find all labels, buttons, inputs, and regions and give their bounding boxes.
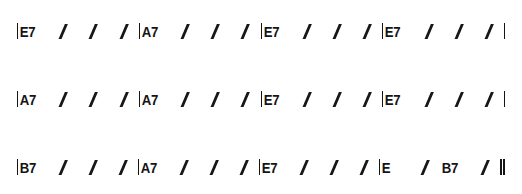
rhythm-slash-icon [454,24,463,39]
staff-line: B7A7E7EB7 [17,154,505,180]
chord-chart: E7A7E7E7A7A7E7E7B7A7E7EB7 [0,0,522,194]
staff-line: A7A7E7E7 [17,86,505,112]
barline [504,91,505,107]
rhythm-slash-icon [413,18,443,44]
rhythm-slash-icon [118,160,127,175]
chord-symbol: A7 [18,86,48,112]
rhythm-slash-icon [413,86,443,112]
rhythm-slash-icon [424,92,433,107]
rhythm-slash-icon [181,92,190,107]
chord-symbol: A7 [140,86,170,112]
measure: A7 [139,154,259,180]
rhythm-slash-icon [319,154,349,180]
rhythm-slash-icon [108,154,138,180]
rhythm-slash-icon [78,154,108,180]
rhythm-slash-icon [181,24,190,39]
rhythm-slash-icon [421,160,430,175]
rhythm-slash-icon [200,86,230,112]
chord-symbol-text: E7 [18,24,35,39]
rhythm-slash-icon [48,154,78,180]
rhythm-slash-icon [229,154,259,180]
final-barline [500,159,505,175]
rhythm-slash-icon [230,18,260,44]
rhythm-slash-icon [200,18,230,44]
chord-symbol-text: B7 [18,160,36,175]
measure: E7 [18,18,139,44]
chord-symbol-text: E7 [260,160,277,175]
measure: B7 [18,154,138,180]
measure: EB7 [380,154,500,180]
chord-symbol: E [380,154,410,180]
rhythm-slash-icon [349,154,379,180]
rhythm-slash-icon [58,160,67,175]
rhythm-slash-icon [88,160,97,175]
rhythm-slash-icon [484,24,493,39]
rhythm-slash-icon [211,24,220,39]
rhythm-slash-icon [78,18,108,44]
chord-symbol-text: A7 [140,92,158,107]
rhythm-slash-icon [470,154,500,180]
chord-symbol: A7 [139,154,169,180]
rhythm-slash-icon [363,24,372,39]
chord-symbol-text: A7 [140,24,158,39]
rhythm-slash-icon [211,92,220,107]
rhythm-slash-icon [292,18,322,44]
rhythm-slash-icon [78,86,108,112]
rhythm-slash-icon [48,18,78,44]
rhythm-slash-icon [444,18,474,44]
chord-symbol-text: E [380,160,390,175]
chord-symbol: E7 [260,154,290,180]
measure: A7 [140,86,261,112]
chord-symbol: A7 [140,18,170,44]
rhythm-slash-icon [230,86,260,112]
measure: E7 [262,86,383,112]
rhythm-slash-icon [322,86,352,112]
chord-symbol: E7 [383,18,413,44]
staff-line: E7A7E7E7 [17,18,505,44]
rhythm-slash-icon [89,24,98,39]
rhythm-slash-icon [474,18,504,44]
chord-symbol: E7 [383,86,413,112]
rhythm-slash-icon [332,92,341,107]
rhythm-slash-icon [302,92,311,107]
rhythm-slash-icon [169,154,199,180]
rhythm-slash-icon [289,154,319,180]
rhythm-slash-icon [119,24,128,39]
rhythm-slash-icon [300,160,309,175]
measure: E7 [383,86,504,112]
rhythm-slash-icon [454,92,463,107]
chord-symbol-text: B7 [440,160,458,175]
rhythm-slash-icon [241,24,250,39]
rhythm-slash-icon [199,154,229,180]
rhythm-slash-icon [352,18,382,44]
chord-symbol-text: A7 [139,160,157,175]
measure: E7 [383,18,504,44]
chord-symbol-text: A7 [18,92,36,107]
rhythm-slash-icon [59,24,68,39]
rhythm-slash-icon [332,24,341,39]
chord-symbol: B7 [18,154,48,180]
rhythm-slash-icon [109,18,139,44]
rhythm-slash-icon [481,160,490,175]
rhythm-slash-icon [410,154,440,180]
rhythm-slash-icon [89,92,98,107]
measure: A7 [140,18,261,44]
rhythm-slash-icon [48,86,78,112]
measure: A7 [18,86,139,112]
chord-symbol-text: E7 [262,92,279,107]
chord-symbol-text: E7 [383,24,400,39]
rhythm-slash-icon [424,24,433,39]
chord-symbol-text: E7 [262,24,279,39]
rhythm-slash-icon [484,92,493,107]
rhythm-slash-icon [239,160,248,175]
rhythm-slash-icon [209,160,218,175]
rhythm-slash-icon [119,92,128,107]
chord-symbol: E7 [262,86,292,112]
rhythm-slash-icon [292,86,322,112]
rhythm-slash-icon [170,86,200,112]
rhythm-slash-icon [360,160,369,175]
rhythm-slash-icon [302,24,311,39]
chord-symbol: E7 [18,18,48,44]
rhythm-slash-icon [474,86,504,112]
rhythm-slash-icon [330,160,339,175]
